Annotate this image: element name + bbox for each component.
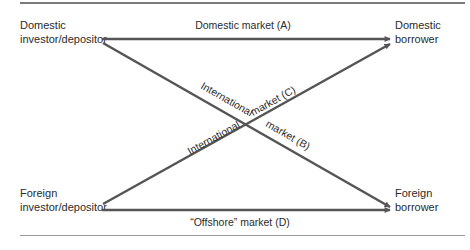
edge-b-label-part2: market (B) [264, 117, 313, 152]
bottom-rule [20, 235, 465, 236]
edge-a-label: Domestic market (A) [195, 19, 291, 31]
edge-c-label-part1: International [185, 118, 241, 157]
market-flow-diagram: Domestic market (A) International market… [0, 0, 470, 250]
edge-d-label: “Offshore” market (D) [190, 216, 290, 228]
